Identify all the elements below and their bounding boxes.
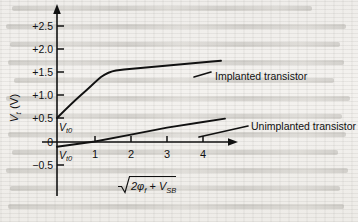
x-tick-label: 2 [128,148,134,160]
y-tick-label: +2.0 [32,43,53,55]
y-tick-labels: +2.5 +2.0 +1.5 +1.0 +0.5 0 −0.5 [32,20,53,171]
curve-label-implanted: Implanted transistor [215,70,308,82]
threshold-voltage-plot: +2.5 +2.0 +1.5 +1.0 +0.5 0 −0.5 1 2 3 4 … [0,0,358,222]
y-tick-marks [57,26,64,165]
x-axis-title-2phi: 2φ [130,180,144,192]
annotation-vt0-upper: Vt0 [59,121,73,135]
y-tick-label: +1.0 [32,89,53,101]
y-axis-title: Vt (V) [8,94,23,123]
y-tick-label: 0 [47,136,53,148]
svg-text:Vt (V): Vt (V) [8,94,23,123]
x-tick-label: 3 [164,148,170,160]
y-tick-label: +0.5 [32,112,53,124]
x-axis-title-sub-sb: SB [166,186,176,195]
annotation-vt0-lower: Vt0 [59,149,73,163]
y-tick-label: +2.5 [32,20,53,32]
y-axis [53,4,61,196]
curve-implanted-transistor [57,61,221,118]
x-tick-label: 1 [92,148,98,160]
y-tick-label: +1.5 [32,66,53,78]
x-axis-title-plus: + [146,180,159,192]
leader-line-unimplanted [199,126,248,137]
x-tick-label: 4 [200,148,206,160]
x-axis-title-expression: 2φf + VSB [130,180,176,195]
y-axis-title-unit: (V) [8,94,20,113]
x-axis-title: 2φf + VSB [118,177,176,195]
x-axis-arrow-icon [228,138,238,146]
curve-label-unimplanted: Unimplanted transistor [251,120,357,132]
x-tick-labels: 1 2 3 4 [92,148,206,160]
y-tick-label: −0.5 [32,159,53,171]
annotation-vt0-upper-sub: t0 [66,126,73,135]
y-axis-arrow-icon [53,4,61,14]
leader-line-implanted [194,72,211,77]
annotation-vt0-lower-sub: t0 [66,154,73,163]
